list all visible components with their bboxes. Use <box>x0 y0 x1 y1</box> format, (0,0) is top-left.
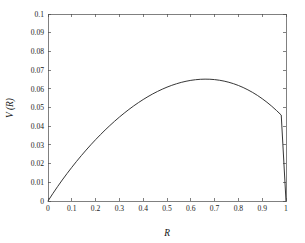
y-tick-label: 0.08 <box>31 47 44 56</box>
y-axis-tick-labels: 00.010.020.030.040.050.060.070.080.090.1 <box>31 10 45 206</box>
x-tick-label: 0.7 <box>210 204 220 213</box>
x-axis-title: R <box>163 228 170 238</box>
y-tick-label: 0.07 <box>31 66 44 75</box>
x-tick-label: 0 <box>46 204 50 213</box>
x-tick-label: 0.8 <box>234 204 244 213</box>
y-tick-label: 0.01 <box>31 178 44 187</box>
y-tick-label: 0.06 <box>31 85 44 94</box>
y-axis-title: V (R) <box>5 98 16 118</box>
x-tick-label: 0.1 <box>67 204 77 213</box>
x-tick-label: 0.4 <box>138 204 148 213</box>
y-tick-label: 0.1 <box>35 10 45 19</box>
figure-container: 00.10.20.30.40.50.60.70.80.91 00.010.020… <box>0 0 305 243</box>
x-tick-label: 0.2 <box>91 204 101 213</box>
y-tick-label: 0.03 <box>31 141 44 150</box>
y-tick-label: 0.04 <box>31 122 44 131</box>
plot-background <box>48 14 286 201</box>
x-tick-label: 0.3 <box>115 204 125 213</box>
x-axis-tick-labels: 00.10.20.30.40.50.60.70.80.91 <box>46 204 288 213</box>
x-tick-label: 0.6 <box>186 204 196 213</box>
y-tick-label: 0.09 <box>31 28 44 37</box>
y-tick-label: 0.02 <box>31 159 44 168</box>
y-tick-label: 0 <box>40 197 44 206</box>
y-tick-label: 0.05 <box>31 103 44 112</box>
x-tick-label: 1 <box>284 204 288 213</box>
plot-area <box>48 14 286 201</box>
chart-canvas: 00.10.20.30.40.50.60.70.80.91 00.010.020… <box>0 0 305 243</box>
x-tick-label: 0.5 <box>162 204 172 213</box>
x-tick-label: 0.9 <box>257 204 267 213</box>
